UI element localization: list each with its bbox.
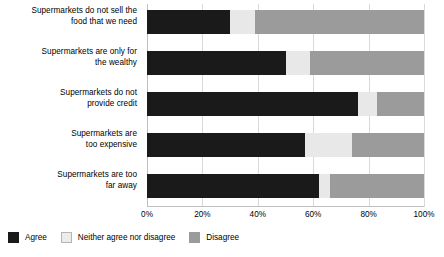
legend-item-neither[interactable]: Neither agree nor disagree	[61, 232, 175, 243]
legend-label-agree: Agree	[25, 232, 47, 243]
bar-row	[147, 133, 424, 157]
stacked-bar	[147, 174, 424, 198]
legend-swatch-agree-icon	[8, 232, 19, 243]
bar-segment-agree	[147, 92, 358, 116]
bar-segment-neither-agree-nor-disagree	[319, 174, 330, 198]
x-tick-label-100: 100%	[414, 209, 435, 221]
legend-label-neither: Neither agree nor disagree	[78, 232, 175, 243]
category-label-0-line2: food that we need	[71, 17, 137, 26]
bar-row	[147, 51, 424, 75]
stacked-bar	[147, 133, 424, 157]
bar-row	[147, 10, 424, 34]
category-label-4-line2: far away	[106, 181, 137, 190]
category-label-3-line2: too expensive	[86, 140, 137, 149]
bar-segment-disagree	[330, 174, 424, 198]
legend-label-disagree: Disagree	[206, 232, 239, 243]
x-axis-tick-labels: 0%20%40%60%80%100%	[147, 209, 424, 223]
bar-segment-neither-agree-nor-disagree	[230, 10, 255, 34]
legend-item-disagree[interactable]: Disagree	[189, 232, 239, 243]
bar-segment-agree	[147, 174, 319, 198]
category-label-2-line1: Supermarkets do not	[60, 88, 137, 97]
bar-segment-disagree	[352, 133, 424, 157]
category-label-2-line2: provide credit	[87, 99, 137, 108]
x-tick-label-80: 80%	[360, 209, 376, 221]
x-tick-label-60: 60%	[305, 209, 321, 221]
bar-rows	[147, 4, 424, 207]
category-axis-labels: Supermarkets do not sell the food that w…	[0, 4, 143, 207]
category-label-1-line1: Supermarkets are only for	[42, 47, 137, 56]
bar-segment-agree	[147, 10, 230, 34]
category-label-1: Supermarkets are only for the wealthy	[0, 47, 137, 68]
category-label-2: Supermarkets do not provide credit	[0, 88, 137, 109]
category-label-4-line1: Supermarkets are too	[57, 170, 137, 179]
category-label-0: Supermarkets do not sell the food that w…	[0, 6, 137, 27]
category-label-0-line1: Supermarkets do not sell the	[31, 6, 137, 15]
bar-row	[147, 92, 424, 116]
category-label-1-line2: the wealthy	[95, 58, 137, 67]
bar-segment-neither-agree-nor-disagree	[286, 51, 311, 75]
category-label-4: Supermarkets are too far away	[0, 170, 137, 191]
legend-item-agree[interactable]: Agree	[8, 232, 47, 243]
category-label-3-line1: Supermarkets are	[71, 129, 137, 138]
x-tick-label-0: 0%	[141, 209, 153, 221]
bar-segment-disagree	[310, 51, 424, 75]
bar-segment-disagree	[377, 92, 424, 116]
bar-segment-agree	[147, 51, 286, 75]
stacked-bar	[147, 51, 424, 75]
x-tick-label-20: 20%	[194, 209, 210, 221]
category-label-3: Supermarkets are too expensive	[0, 129, 137, 150]
x-tick-label-40: 40%	[250, 209, 266, 221]
stacked-bar	[147, 10, 424, 34]
legend-swatch-neither-icon	[61, 232, 72, 243]
bar-row	[147, 174, 424, 198]
stacked-bar-chart: Supermarkets do not sell the food that w…	[0, 0, 444, 257]
bar-segment-agree	[147, 133, 305, 157]
legend-swatch-disagree-icon	[189, 232, 200, 243]
gridline-100	[424, 4, 425, 207]
bar-segment-neither-agree-nor-disagree	[358, 92, 377, 116]
plot-area	[147, 4, 424, 207]
bar-segment-neither-agree-nor-disagree	[305, 133, 352, 157]
stacked-bar	[147, 92, 424, 116]
chart-legend: AgreeNeither agree nor disagreeDisagree	[8, 230, 253, 244]
bar-segment-disagree	[255, 10, 424, 34]
